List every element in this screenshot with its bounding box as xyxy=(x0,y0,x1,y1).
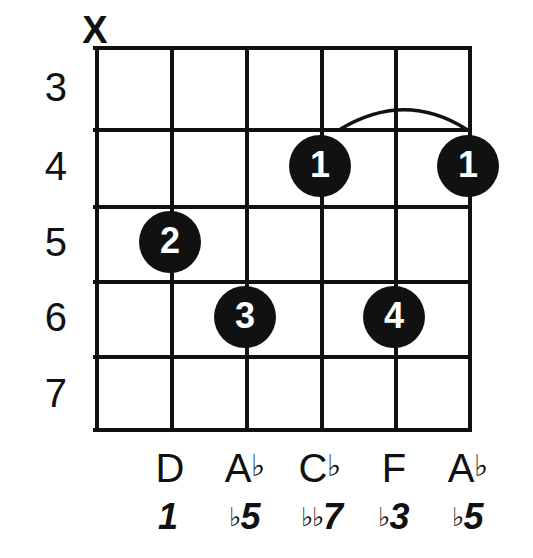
finger-dot-1-string6[interactable]: 1 xyxy=(437,135,499,197)
finger-dot-label: 3 xyxy=(235,298,255,334)
finger-dot-label: 4 xyxy=(384,298,404,334)
finger-dot-label: 1 xyxy=(458,147,478,183)
finger-dot-label: 1 xyxy=(310,147,330,183)
labels-layer: D A♭ C♭ F A♭ 1 ♭5 ♭♭7 ♭3 ♭5 xyxy=(0,0,533,558)
note-letter: A xyxy=(225,446,252,490)
chord-diagram: 3 4 5 6 7 X 1 1 2 xyxy=(0,0,533,558)
note-letter: A xyxy=(448,446,475,490)
note-name-string5: F xyxy=(382,448,406,488)
note-accidental: ♭ xyxy=(327,449,341,482)
interval-degree: 7 xyxy=(323,496,343,537)
interval-string2: 1 xyxy=(158,499,178,535)
interval-string5: ♭3 xyxy=(378,499,409,535)
interval-accidental: ♭ xyxy=(452,502,463,532)
interval-degree: 5 xyxy=(463,496,483,537)
note-name-string4: C♭ xyxy=(299,448,342,488)
note-accidental: ♭ xyxy=(251,449,265,482)
interval-accidental: ♭ xyxy=(229,502,240,532)
interval-degree: 1 xyxy=(158,496,178,537)
note-letter: D xyxy=(156,446,185,490)
note-name-string6: A♭ xyxy=(448,448,489,488)
finger-dot-2-string2[interactable]: 2 xyxy=(139,211,201,273)
interval-accidental: ♭ xyxy=(378,502,389,532)
interval-string6: ♭5 xyxy=(452,499,483,535)
finger-dot-4-string5[interactable]: 4 xyxy=(363,286,425,348)
interval-accidental: ♭♭ xyxy=(301,502,323,532)
note-letter: C xyxy=(299,446,328,490)
interval-degree: 5 xyxy=(240,496,260,537)
note-name-string2: D xyxy=(156,448,185,488)
note-accidental: ♭ xyxy=(474,449,488,482)
finger-dot-1-string4[interactable]: 1 xyxy=(289,135,351,197)
note-name-string3: A♭ xyxy=(225,448,266,488)
interval-degree: 3 xyxy=(389,496,409,537)
interval-string3: ♭5 xyxy=(229,499,260,535)
finger-dot-label: 2 xyxy=(160,223,180,259)
interval-string4: ♭♭7 xyxy=(301,499,343,535)
note-letter: F xyxy=(382,446,406,490)
finger-dot-3-string3[interactable]: 3 xyxy=(214,286,276,348)
